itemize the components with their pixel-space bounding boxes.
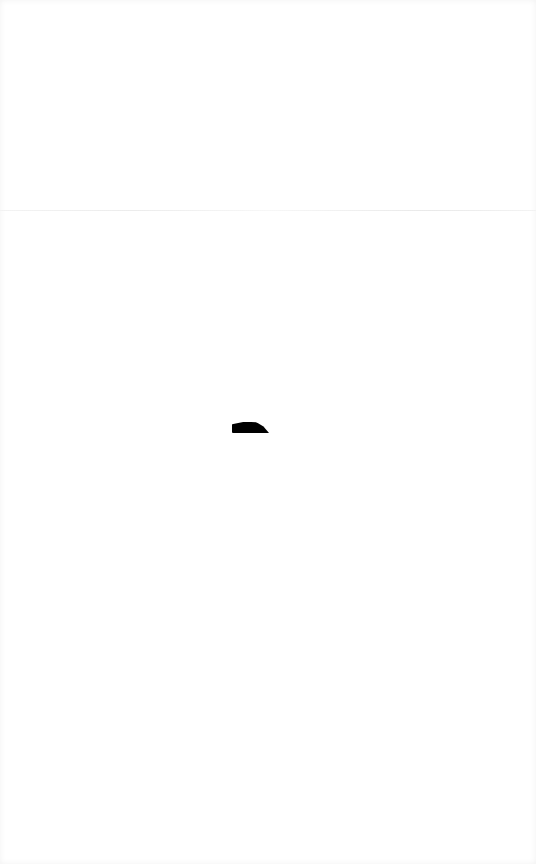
blank-canvas <box>0 0 536 864</box>
black-shape-icon <box>232 422 269 433</box>
horizontal-divider <box>0 210 536 211</box>
